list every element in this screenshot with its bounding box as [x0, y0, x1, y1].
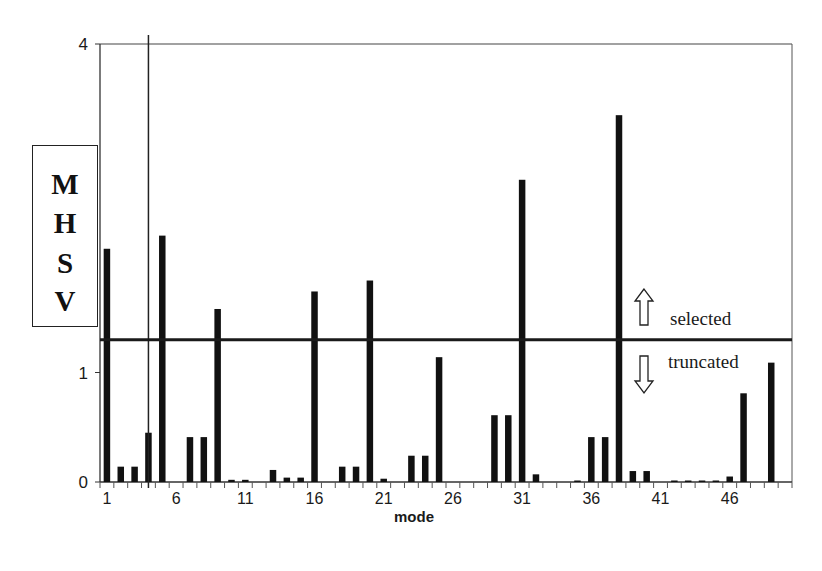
up-arrow-icon [635, 289, 653, 325]
bar [422, 456, 429, 482]
bar [214, 309, 221, 482]
bar [740, 393, 747, 482]
bar [131, 467, 138, 482]
x-tick-label: 6 [172, 490, 181, 507]
bar [367, 281, 374, 482]
truncated-label: truncated [668, 351, 739, 372]
bar [380, 479, 387, 482]
selected-annotation: selected [635, 289, 732, 329]
bar [242, 480, 249, 482]
bar [228, 480, 235, 482]
bar [284, 478, 291, 482]
bar [118, 467, 125, 482]
y-tick-label: 1 [79, 364, 88, 383]
bars [104, 115, 775, 482]
bar [339, 467, 346, 482]
bar [505, 415, 512, 482]
bar [408, 456, 415, 482]
bar [201, 437, 208, 482]
y-axis-label-letter: M [33, 170, 97, 199]
bar [436, 357, 443, 482]
mhsv-bar-chart: 014 161116212631364146 selected truncate… [0, 0, 822, 571]
bar [630, 471, 637, 482]
x-tick-label: 26 [444, 490, 462, 507]
x-tick-label: 31 [513, 490, 531, 507]
down-arrow-icon [635, 356, 653, 393]
bar [187, 437, 194, 482]
x-axis-label: mode [394, 508, 434, 525]
x-ticks: 161116212631364146 [100, 482, 792, 507]
plot-frame [100, 44, 792, 482]
x-tick-label: 11 [237, 490, 254, 507]
x-tick-label: 21 [375, 490, 393, 507]
y-axis-label-letter: H [33, 209, 97, 238]
bar [699, 481, 706, 483]
bar [574, 481, 581, 483]
truncated-annotation: truncated [635, 351, 739, 393]
bar [519, 180, 526, 482]
bar [159, 236, 166, 482]
bar [104, 249, 111, 482]
selected-label: selected [670, 308, 732, 329]
bar [588, 437, 595, 482]
x-tick-label: 36 [582, 490, 600, 507]
y-axis-label-box: M H S V [32, 145, 98, 327]
x-tick-label: 41 [652, 490, 670, 507]
bar [685, 481, 692, 483]
x-tick-label: 46 [721, 490, 739, 507]
bar [671, 481, 678, 483]
x-tick-label: 1 [102, 490, 111, 507]
bar [726, 477, 733, 482]
bar [533, 474, 540, 482]
bar [643, 471, 650, 482]
y-axis-label-letter: S [33, 249, 97, 278]
bar [616, 115, 623, 482]
bar [311, 291, 318, 482]
bar [768, 363, 775, 482]
y-tick-label: 4 [79, 35, 88, 54]
x-tick-label: 16 [306, 490, 324, 507]
bar [297, 478, 304, 482]
bar [270, 470, 277, 482]
bar [602, 437, 609, 482]
bar [713, 481, 720, 483]
bar [491, 415, 498, 482]
bar [353, 467, 360, 482]
y-tick-label: 0 [79, 473, 88, 492]
y-axis-label-letter: V [33, 287, 97, 316]
